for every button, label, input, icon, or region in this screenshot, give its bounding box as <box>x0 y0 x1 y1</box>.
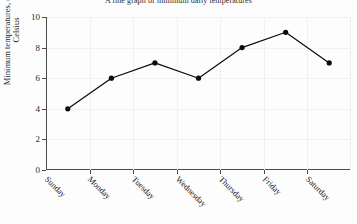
data-point-sunday <box>65 106 70 111</box>
x-axis-label-wednesday: Wednesday <box>173 174 208 209</box>
y-axis-title-line2: Celsius <box>12 17 21 42</box>
y-tick-label: 6 <box>36 73 41 83</box>
y-tick-mark <box>42 170 46 171</box>
x-tick-mark <box>177 170 178 174</box>
data-point-friday <box>283 30 288 35</box>
data-point-saturday <box>327 60 332 65</box>
x-tick-mark <box>307 170 308 174</box>
x-axis-label-monday: Monday <box>86 174 113 201</box>
x-tick-mark <box>90 170 91 174</box>
y-tick-label: 8 <box>36 43 41 53</box>
y-tick-label: 4 <box>36 104 41 114</box>
line-series-minimum-temperature <box>68 32 329 109</box>
data-point-markers <box>65 30 332 112</box>
data-point-wednesday <box>196 76 201 81</box>
y-tick-label: 2 <box>36 134 41 144</box>
data-point-monday <box>109 76 114 81</box>
x-axis-label-tuesday: Tuesday <box>130 174 157 201</box>
x-tick-mark <box>220 170 221 174</box>
y-tick-label: 0 <box>36 165 41 175</box>
y-axis-title: Minimum temperatures, degrees Celsius <box>0 0 24 108</box>
x-axis-label-saturday: Saturday <box>304 174 332 202</box>
data-point-tuesday <box>152 60 157 65</box>
chart-canvas: A line graph of minimum daily temperatur… <box>0 0 357 224</box>
y-axis-title-line1: Minimum temperatures, degrees <box>3 0 12 85</box>
plot-area: 0246810 <box>46 17 351 170</box>
data-series-layer <box>46 17 351 170</box>
x-tick-mark <box>133 170 134 174</box>
x-axis-label-thursday: Thursday <box>217 174 247 204</box>
data-point-thursday <box>239 45 244 50</box>
y-tick-label: 10 <box>31 12 40 22</box>
x-axis-label-friday: Friday <box>261 174 284 197</box>
x-axis-label-sunday: Sunday <box>43 174 68 199</box>
x-tick-mark <box>264 170 265 174</box>
chart-title: A line graph of minimum daily temperatur… <box>0 0 357 5</box>
